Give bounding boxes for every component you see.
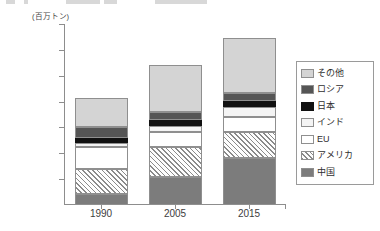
y-axis-tick (59, 179, 64, 180)
x-tick-label: 2015 (238, 208, 260, 219)
bar-segment (75, 143, 128, 146)
bar-segment (223, 38, 276, 92)
scan-artifact-row (0, 0, 380, 7)
bar-segment (149, 120, 202, 126)
bar-segment (149, 112, 202, 120)
japan-swatch (301, 102, 314, 111)
chart-figure: (百万トン) 35,00030,00025,00020,00015,00010,… (0, 0, 380, 231)
y-axis-tick (59, 102, 64, 103)
legend-item[interactable]: 中国 (301, 164, 370, 181)
legend-label: ロシア (317, 85, 344, 94)
y-axis-tick (59, 127, 64, 128)
stacked-bar (75, 98, 128, 205)
india-swatch (301, 118, 314, 127)
y-axis-tick (59, 24, 64, 25)
legend-label: その他 (317, 69, 344, 78)
other-swatch (301, 69, 314, 78)
bar-segment (75, 169, 128, 194)
russia-swatch (301, 85, 314, 94)
legend-item[interactable]: 日本 (301, 98, 370, 115)
chart-legend: その他ロシア日本インドEUアメリカ中国 (296, 61, 374, 185)
legend-item[interactable]: アメリカ (301, 148, 370, 165)
legend-item[interactable]: EU (301, 131, 370, 148)
y-axis-unit-label: (百万トン) (32, 10, 69, 21)
bar-segment (149, 65, 202, 112)
plot-area: 199020052015 (64, 24, 286, 205)
legend-label: インド (317, 118, 344, 127)
bar-segment (223, 101, 276, 107)
y-axis-tick (59, 76, 64, 77)
y-axis-tick (59, 50, 64, 51)
bar-segment (149, 126, 202, 131)
legend-label: 中国 (317, 168, 335, 177)
bar-segment (223, 107, 276, 117)
bar-segment (75, 194, 128, 205)
bar-segment (75, 98, 128, 127)
legend-label: アメリカ (317, 151, 353, 160)
bar-segment (223, 132, 276, 158)
y-axis-line (64, 24, 65, 205)
bar-segment (223, 93, 276, 101)
x-tick-label: 2005 (164, 208, 186, 219)
stacked-bar (223, 38, 276, 205)
eu-swatch (301, 135, 314, 144)
x-axis-end-tick (285, 205, 286, 209)
legend-label: EU (317, 135, 330, 144)
bar-segment (223, 158, 276, 205)
bar-segment (223, 117, 276, 131)
america-swatch (301, 151, 314, 160)
bar-segment (75, 147, 128, 169)
x-tick-label: 1990 (90, 208, 112, 219)
legend-item[interactable]: その他 (301, 65, 370, 82)
bar-segment (149, 132, 202, 147)
legend-item[interactable]: ロシア (301, 82, 370, 99)
legend-item[interactable]: インド (301, 115, 370, 132)
bar-segment (149, 147, 202, 178)
bar-segment (75, 127, 128, 138)
china-swatch (301, 168, 314, 177)
stacked-bar (149, 65, 202, 205)
y-axis-tick (59, 153, 64, 154)
legend-label: 日本 (317, 102, 335, 111)
bar-segment (149, 177, 202, 205)
bar-segment (75, 138, 128, 143)
